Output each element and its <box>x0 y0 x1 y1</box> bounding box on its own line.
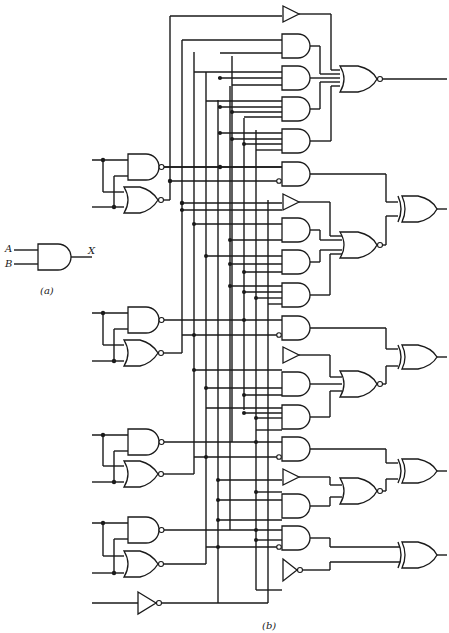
input-label-a: A <box>5 243 12 254</box>
input-stage-2 <box>92 307 290 366</box>
alu-schematic <box>0 0 449 633</box>
input-label-b: B <box>5 258 12 269</box>
caption-b: (b) <box>262 620 276 631</box>
input-stage-3 <box>92 429 290 487</box>
output-label-x: X <box>88 245 95 256</box>
output-block-4 <box>277 526 447 581</box>
vertical-bus <box>170 16 256 603</box>
caption-a: (a) <box>40 285 54 296</box>
carry-inverter <box>92 200 268 614</box>
feed-lines <box>168 16 282 205</box>
and-gate-example <box>14 244 92 270</box>
input-stage-1 <box>92 154 290 213</box>
input-stage-4 <box>92 517 290 577</box>
output-block-1 <box>277 162 447 307</box>
output-block-2 <box>277 316 447 429</box>
output-block-3 <box>277 437 447 518</box>
output-block-top <box>282 6 447 153</box>
